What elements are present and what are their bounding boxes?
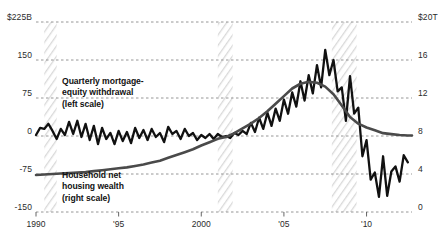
right-axis-tick-label-2: 12 xyxy=(418,89,428,98)
x-axis-tick-label-4: '10 xyxy=(361,220,372,229)
right-axis-tick-label-3: 8 xyxy=(418,127,423,136)
chart-container: $225B150750-75-150 $20T1612840 1990'9520… xyxy=(0,0,440,242)
x-axis-tick-label-2: 2000 xyxy=(192,220,211,229)
right-axis-tick-label-5: 0 xyxy=(418,203,423,212)
wealth-label: Household net housing wealth (right scal… xyxy=(62,170,124,204)
left-axis-tick-label-2: 75 xyxy=(22,89,32,98)
x-axis-tick-label-3: '05 xyxy=(278,220,289,229)
left-axis-tick-label-1: 150 xyxy=(18,51,32,60)
x-axis-tick-label-0: 1990 xyxy=(27,220,46,229)
left-axis-tick-label-0: $225B xyxy=(7,13,32,22)
left-axis-tick-label-4: -75 xyxy=(19,165,32,174)
right-axis-tick-label-0: $20T xyxy=(418,13,438,22)
right-axis-tick-label-1: 16 xyxy=(418,51,428,60)
mew-label: Quarterly mortgage- equity withdrawal (l… xyxy=(62,76,144,110)
x-axis-tick-label-1: '95 xyxy=(113,220,124,229)
right-axis-tick-label-4: 4 xyxy=(418,165,423,174)
x-axis-ticks xyxy=(36,212,367,217)
left-axis-tick-label-3: 0 xyxy=(27,127,32,136)
left-axis-tick-label-5: -150 xyxy=(15,203,32,212)
chart-plot-area xyxy=(0,0,440,242)
